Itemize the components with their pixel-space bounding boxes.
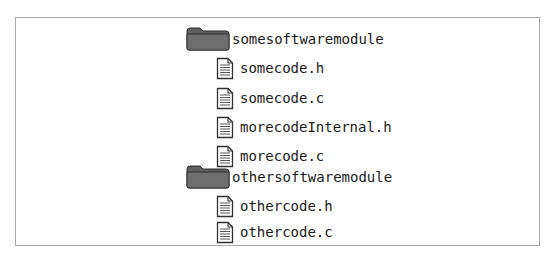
file-name: somecode.c: [240, 90, 324, 106]
file-row[interactable]: othercode.c: [216, 219, 333, 245]
file-name: morecode.c: [240, 148, 324, 164]
folder-icon: [186, 27, 230, 51]
file-row[interactable]: morecodeInternal.h: [216, 114, 392, 140]
file-row[interactable]: somecode.c: [216, 85, 324, 111]
folder-row[interactable]: somesoftwaremodule: [186, 26, 384, 52]
file-icon: [216, 57, 234, 80]
folder-icon: [186, 165, 230, 189]
file-name: othercode.h: [240, 198, 333, 214]
folder-name: somesoftwaremodule: [232, 31, 384, 47]
file-name: othercode.c: [240, 224, 333, 240]
file-name: morecodeInternal.h: [240, 119, 392, 135]
file-icon: [216, 221, 234, 244]
file-row[interactable]: somecode.h: [216, 55, 324, 81]
file-name: somecode.h: [240, 60, 324, 76]
file-icon: [216, 87, 234, 110]
folder-row[interactable]: othersoftwaremodule: [186, 164, 392, 190]
file-icon: [216, 116, 234, 139]
file-row[interactable]: othercode.h: [216, 193, 333, 219]
file-icon: [216, 195, 234, 218]
folder-name: othersoftwaremodule: [232, 169, 392, 185]
